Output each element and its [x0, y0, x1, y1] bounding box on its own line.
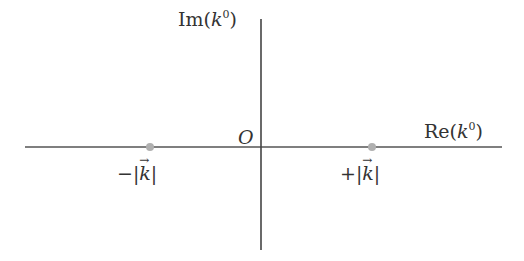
- re-text: Re: [424, 120, 450, 142]
- imaginary-axis-label: Im(k0): [178, 8, 237, 30]
- origin-label: O: [238, 126, 254, 148]
- im-var: k: [211, 8, 223, 30]
- plus-sign: +: [340, 162, 356, 184]
- complex-plane-diagram: Im(k0) Re(k0) O −|→k| +|→k|: [0, 0, 524, 261]
- point-negative-k: [146, 143, 154, 151]
- point-positive-k: [368, 143, 376, 151]
- im-text: Im: [178, 8, 204, 30]
- minus-sign: −: [117, 162, 133, 184]
- vector-arrow-icon: →: [139, 153, 149, 167]
- negative-k-label: −|→k|: [117, 162, 157, 184]
- vector-arrow-icon: →: [362, 153, 372, 167]
- real-axis-label: Re(k0): [424, 120, 483, 142]
- im-sup: 0: [222, 8, 229, 21]
- re-var: k: [457, 120, 469, 142]
- positive-k-label: +|→k|: [340, 162, 380, 184]
- re-sup: 0: [469, 120, 476, 133]
